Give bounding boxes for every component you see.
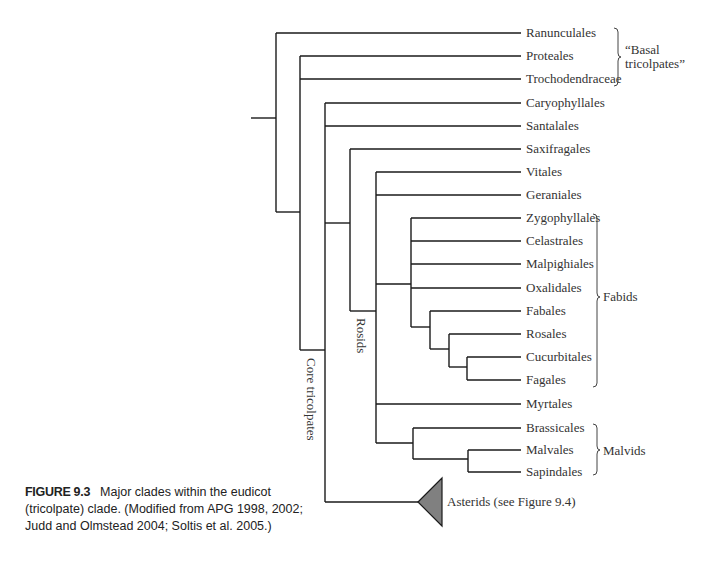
taxon-label: Geraniales: [526, 187, 582, 202]
taxon-label: Cucurbitales: [526, 349, 592, 364]
phylogenetic-tree: Ranunculales Proteales Trochodendraceae …: [0, 0, 705, 568]
taxon-label: Trochodendraceae: [526, 71, 622, 86]
taxon-label: Fabales: [526, 303, 566, 318]
taxon-label: Ranunculales: [526, 25, 596, 40]
rosids-label: Rosids: [354, 318, 369, 353]
taxon-label: Vitales: [526, 164, 562, 179]
asterids-collapsed-triangle: [418, 478, 442, 526]
taxon-label: Saxifragales: [526, 141, 590, 156]
basal-tricolpates-label-2: tricolpates”: [625, 56, 685, 71]
taxon-label: Celastrales: [526, 233, 583, 248]
asterids-label: Asterids (see Figure 9.4): [447, 494, 576, 509]
core-tricolpates-label: Core tricolpates: [304, 358, 319, 441]
fabids-label: Fabids: [603, 289, 638, 304]
taxon-label: Santalales: [526, 118, 579, 133]
taxon-label: Malvales: [526, 442, 574, 457]
taxon-label: Rosales: [526, 326, 566, 341]
malvids-bracket: [593, 424, 600, 475]
taxon-label: Proteales: [526, 48, 574, 63]
figure-caption: FIGURE 9.3Major clades within the eudico…: [25, 484, 325, 535]
basal-tricolpates-label-1: “Basal: [625, 42, 660, 57]
taxon-label: Zygophyllales: [526, 210, 600, 225]
taxon-label: Fagales: [526, 372, 566, 387]
taxon-label: Sapindales: [526, 464, 582, 479]
taxon-label: Caryophyllales: [526, 95, 605, 110]
taxon-label: Brassicales: [526, 420, 584, 435]
taxon-label: Malpighiales: [526, 256, 594, 271]
figure-label: FIGURE 9.3: [25, 485, 90, 499]
malvids-label: Malvids: [603, 443, 646, 458]
taxon-label: Myrtales: [526, 396, 572, 411]
taxon-labels: Ranunculales Proteales Trochodendraceae …: [447, 25, 622, 509]
taxon-label: Oxalidales: [526, 280, 582, 295]
fabids-bracket: [593, 214, 600, 387]
